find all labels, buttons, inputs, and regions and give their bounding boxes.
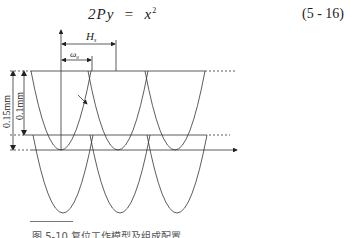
- parabola-diagram: Hs ω0 0.15mm 0.1mm: [0, 0, 350, 238]
- upper-parabola-3: [145, 71, 205, 150]
- lower-parabola-2: [90, 135, 150, 213]
- figure-caption: 图 5-10 复位工作模型及组成配置: [32, 228, 181, 238]
- w0-label: ω0: [70, 49, 79, 60]
- lower-parabola-1: [33, 135, 93, 213]
- hs-label: Hs: [85, 30, 97, 43]
- upper-parabola-2: [88, 71, 148, 150]
- caption-rule: [30, 221, 73, 222]
- lower-parabola-3: [147, 135, 207, 213]
- dim-01-label: 0.1mm: [14, 92, 25, 120]
- dim-015-label: 0.15mm: [1, 95, 12, 128]
